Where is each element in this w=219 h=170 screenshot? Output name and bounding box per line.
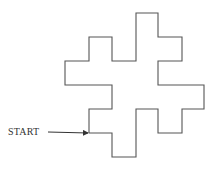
start-arrow-icon: [48, 132, 88, 133]
start-label: START: [8, 126, 39, 137]
diagram-canvas: START: [0, 0, 219, 170]
path-figure: [0, 0, 219, 170]
closed-path-outline: [65, 13, 204, 157]
